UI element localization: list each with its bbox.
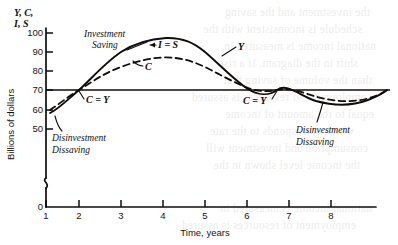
- y-label-leader: [222, 47, 236, 56]
- x-ticklabel-7: 7: [286, 210, 291, 221]
- annotation-y: Y: [222, 41, 245, 56]
- annotation-investment-saving: Investment Saving: [83, 29, 147, 50]
- disinvestment-left-leader: [55, 116, 62, 131]
- disinvestment-right-leader: [317, 102, 323, 122]
- x-ticklabel-4: 4: [160, 210, 165, 221]
- x-ticklabel-8: 8: [328, 210, 333, 221]
- y-ticklabel-100: 100: [27, 27, 43, 38]
- annotation-disinvestment-dissaving-left: Disinvestment Dissaving: [51, 116, 106, 155]
- y-ticklabel-70: 70: [32, 84, 43, 95]
- disinvestment-left-line1: Disinvestment: [51, 133, 106, 143]
- x-ticklabel-1: 1: [43, 210, 48, 221]
- disinvestment-right-line2: Dissaving: [295, 137, 334, 147]
- annotation-i-equals-s: I = S: [150, 39, 179, 50]
- y-ticklabel-0: 0: [38, 201, 43, 212]
- investment-saving-line1: Investment: [83, 29, 126, 39]
- y-axis: 100 90 80 70 60 50 0 Y, C, I, S Billions…: [5, 7, 53, 212]
- c-equals-y-left-label: C = Y: [86, 94, 110, 105]
- y-axis-title-line1: Y, C,: [14, 7, 33, 18]
- y-axis-break-icon: [45, 178, 48, 188]
- y-axis-label: Billions of dollars: [5, 88, 16, 160]
- chart-figure: 100 90 80 70 60 50 0 Y, C, I, S Billions…: [0, 0, 398, 245]
- x-ticklabel-5: 5: [202, 210, 207, 221]
- c-equals-y-left-leader: [79, 91, 84, 99]
- y-ticklabel-90: 90: [32, 46, 43, 57]
- investment-saving-line2: Saving: [92, 40, 118, 50]
- x-axis-label: Time, years: [180, 227, 230, 238]
- y-ticklabel-60: 60: [32, 104, 43, 115]
- y-axis-title-line2: I, S: [13, 18, 29, 29]
- annotation-disinvestment-dissaving-right: Disinvestment Dissaving: [295, 102, 350, 147]
- i-equals-s-label: I = S: [157, 39, 179, 50]
- x-ticklabel-6: 6: [244, 210, 249, 221]
- y-ticklabel-80: 80: [32, 65, 43, 76]
- disinvestment-left-line2: Dissaving: [51, 145, 90, 155]
- x-axis: 1 2 3 4 5 6 7 8 Time, years: [43, 200, 376, 238]
- c-equals-y-right-label: C = Y: [243, 95, 267, 106]
- c-label: C: [145, 61, 152, 72]
- x-ticklabel-2: 2: [76, 210, 81, 221]
- annotation-c-equals-y-left: C = Y: [79, 91, 110, 105]
- y-ticklabel-50: 50: [32, 123, 43, 134]
- i-equals-s-arrowhead: [150, 43, 155, 48]
- x-ticklabel-3: 3: [118, 210, 123, 221]
- disinvestment-right-line1: Disinvestment: [295, 125, 350, 135]
- y-label: Y: [238, 41, 245, 52]
